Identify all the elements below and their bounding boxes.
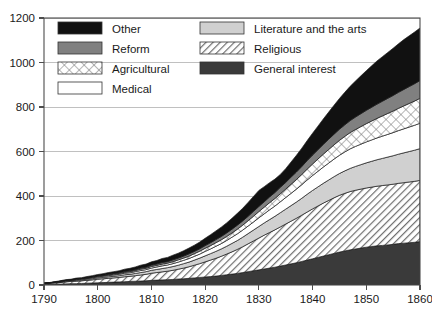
y-tick-label-400: 400 xyxy=(16,190,35,202)
x-tick-label-1860: 1860 xyxy=(407,293,432,305)
x-tick-label-1840: 1840 xyxy=(300,293,326,305)
legend-label-reform: Reform xyxy=(112,43,150,55)
stacked-area-chart: 020040060080010001200 179018001810182018… xyxy=(0,0,432,318)
x-tick-label-1800: 1800 xyxy=(85,293,111,305)
y-tick-label-800: 800 xyxy=(16,101,35,113)
y-tick-label-1000: 1000 xyxy=(9,57,35,69)
legend-swatch-reform xyxy=(58,42,102,54)
y-tick-label-200: 200 xyxy=(16,235,35,247)
x-tick-label-1850: 1850 xyxy=(353,293,379,305)
x-tick-label-1790: 1790 xyxy=(31,293,57,305)
legend-label-general-interest: General interest xyxy=(254,63,337,75)
legend-label-agricultural: Agricultural xyxy=(112,63,170,75)
legend-swatch-literature-and-the-arts xyxy=(200,22,244,34)
legend-swatch-general-interest xyxy=(200,62,244,74)
legend-swatch-medical xyxy=(58,82,102,94)
y-tick-label-0: 0 xyxy=(29,279,35,291)
legend-swatch-religious xyxy=(200,42,244,54)
legend-label-other: Other xyxy=(112,23,141,35)
legend-swatch-other xyxy=(58,22,102,34)
y-tick-label-1200: 1200 xyxy=(9,12,35,24)
legend-label-religious: Religious xyxy=(254,43,302,55)
x-tick-label-1810: 1810 xyxy=(139,293,165,305)
chart-svg: 020040060080010001200 179018001810182018… xyxy=(0,0,432,318)
y-tick-label-600: 600 xyxy=(16,146,35,158)
legend-label-medical: Medical xyxy=(112,83,152,95)
x-tick-label-1820: 1820 xyxy=(192,293,218,305)
x-tick-label-1830: 1830 xyxy=(246,293,272,305)
legend-label-literature-and-the-arts: Literature and the arts xyxy=(254,23,367,35)
legend-swatch-agricultural xyxy=(58,62,102,74)
